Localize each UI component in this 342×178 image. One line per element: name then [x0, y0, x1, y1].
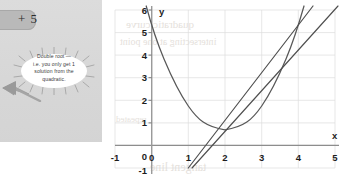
graph-figure: quadratic curve intersecting at one poin…: [110, 2, 341, 177]
chart-canvas: -1 0 1 2 3 4 5 6 5 4 3 2 1 0 -1 y x: [110, 2, 341, 177]
x-tick-1: 1: [186, 152, 192, 163]
callout-line-2: i.e. you only get 1: [21, 61, 87, 69]
grid-vertical: [115, 10, 335, 168]
y-axis-tick-labels: 6 5 4 3 2 1 0 -1: [139, 5, 148, 177]
tangent-line: [188, 6, 313, 168]
y-tick-6: 6: [142, 5, 147, 16]
axes: [115, 6, 339, 174]
y-tick-2: 2: [142, 95, 147, 106]
y-axis-label: y: [159, 6, 165, 17]
secant-line: [192, 6, 338, 168]
y-tick-1: 1: [142, 117, 148, 128]
y-tick--1: -1: [139, 165, 148, 176]
x-tick--1: -1: [111, 152, 120, 163]
screenshot-root: + 5: [0, 0, 342, 178]
callout-line-1: Double root —: [21, 53, 87, 61]
y-tick-0: 0: [142, 151, 147, 162]
x-axis-label: x: [332, 130, 338, 141]
y-tick-5: 5: [142, 27, 148, 38]
y-tick-4: 4: [142, 50, 148, 61]
x-tick-2: 2: [222, 152, 227, 163]
pointer-arrow-icon: [0, 72, 42, 102]
x-tick-3: 3: [259, 152, 264, 163]
x-tick-4: 4: [296, 152, 302, 163]
y-tick-3: 3: [142, 72, 147, 83]
x-tick-5: 5: [332, 152, 338, 163]
expression-pill-label: + 5: [18, 11, 38, 27]
x-tick-0: 0: [149, 152, 154, 163]
